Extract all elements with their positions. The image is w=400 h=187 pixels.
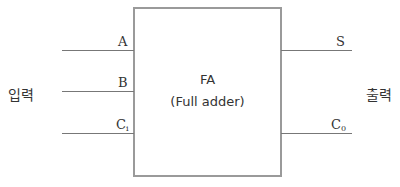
input-group-label: 입력 <box>8 84 34 104</box>
input-wire-a <box>62 50 134 51</box>
output-wire-s <box>281 50 352 51</box>
block-full-name: (Full adder) <box>133 94 282 109</box>
pin-label-a: A <box>118 34 127 49</box>
input-wire-ci <box>62 133 134 134</box>
output-wire-c0 <box>281 133 352 134</box>
pin-label-b: B <box>118 75 128 90</box>
output-group-label: 출력 <box>366 84 392 104</box>
pin-label-c0: C0 <box>331 117 346 133</box>
block-name: FA <box>133 72 282 87</box>
pin-label-s: S <box>336 34 345 49</box>
full-adder-block <box>133 7 282 177</box>
input-wire-b <box>62 91 134 92</box>
pin-label-ci: Ci <box>116 117 129 133</box>
